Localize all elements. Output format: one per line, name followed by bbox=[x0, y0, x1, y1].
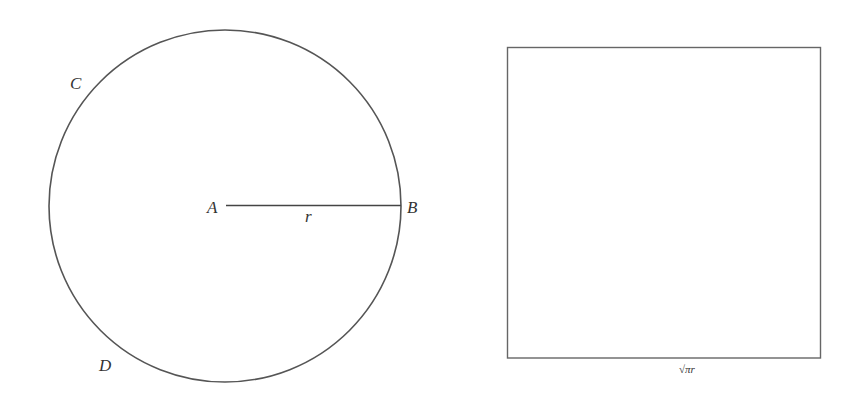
radius-r-label: r bbox=[305, 207, 312, 226]
square-side-label: √πr bbox=[679, 363, 696, 375]
square-figure: √πr bbox=[508, 48, 821, 376]
point-b-label: B bbox=[407, 198, 418, 217]
point-a-label: A bbox=[206, 198, 218, 217]
point-d-label: D bbox=[98, 356, 112, 375]
square-outline bbox=[508, 48, 821, 359]
point-c-label: C bbox=[70, 74, 82, 93]
circle-square-diagram: A B r C D √πr bbox=[0, 0, 849, 403]
circle-figure: A B r C D bbox=[49, 30, 418, 382]
